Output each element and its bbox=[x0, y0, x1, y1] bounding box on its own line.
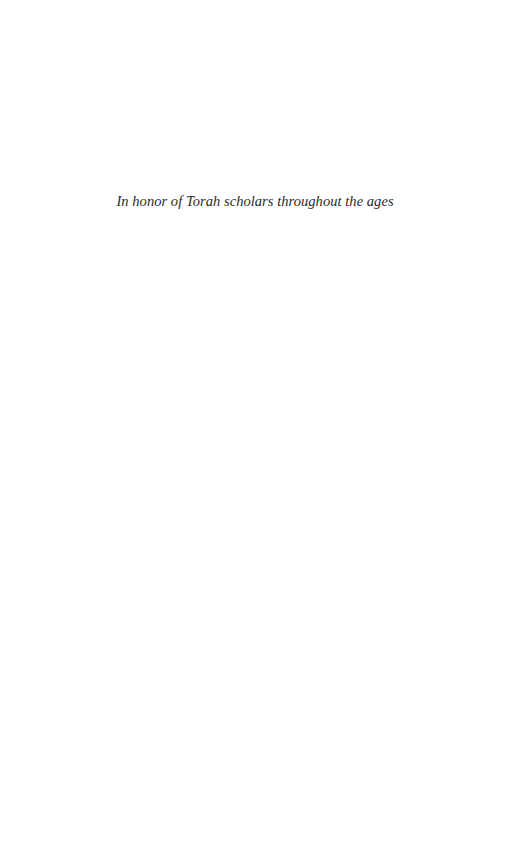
dedication-text: In honor of Torah scholars throughout th… bbox=[0, 191, 510, 211]
dedication-page: In honor of Torah scholars throughout th… bbox=[0, 0, 528, 860]
